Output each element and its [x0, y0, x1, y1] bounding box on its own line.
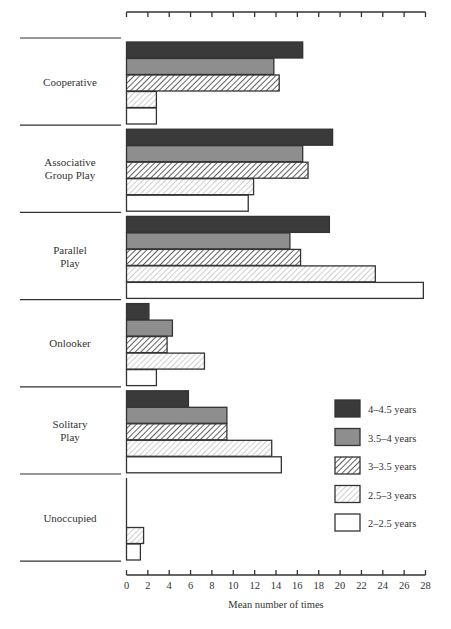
- x-tick-label: 18: [313, 580, 324, 591]
- bar: [127, 92, 157, 108]
- bar: [127, 179, 254, 195]
- x-tick-label: 14: [271, 580, 282, 591]
- bar: [127, 233, 290, 249]
- bar: [127, 75, 280, 91]
- bar: [127, 457, 282, 473]
- category-label: Play: [60, 431, 80, 443]
- bar: [127, 353, 205, 369]
- bar: [127, 407, 227, 423]
- bar: [127, 370, 157, 386]
- x-tick-label: 0: [124, 580, 129, 591]
- category-label: Play: [60, 257, 80, 269]
- x-tick-label: 6: [188, 580, 193, 591]
- legend-swatch: [335, 400, 360, 417]
- x-tick-label: 28: [420, 580, 431, 591]
- category-label: Parallel: [53, 244, 87, 256]
- bar: [127, 249, 301, 265]
- category-label: Group Play: [45, 169, 96, 181]
- bar: [127, 162, 309, 178]
- bar: [127, 42, 303, 58]
- play-behavior-chart: CooperativeAssociativeGroup PlayParallel…: [0, 0, 451, 629]
- legend-swatch: [335, 514, 360, 531]
- x-tick-label: 24: [378, 580, 389, 591]
- legend-swatch: [335, 429, 360, 446]
- category-label: Solitary: [53, 418, 88, 430]
- x-tick-label: 12: [249, 580, 260, 591]
- bar: [127, 146, 303, 162]
- bar: [127, 282, 424, 298]
- legend-label: 2–2.5 years: [368, 518, 416, 529]
- category-separators: [20, 38, 121, 561]
- bar: [127, 108, 157, 124]
- legend-label: 4–4.5 years: [368, 404, 416, 415]
- x-tick-label: 4: [167, 580, 173, 591]
- x-tick-label: 10: [228, 580, 239, 591]
- category-label: Unoccupied: [43, 512, 97, 524]
- x-axis-label: Mean number of times: [228, 599, 323, 610]
- x-tick-label: 2: [145, 580, 150, 591]
- bottom-axis: 0246810121416182022242628: [124, 570, 431, 591]
- category-label: Associative: [44, 156, 95, 168]
- x-tick-label: 22: [356, 580, 367, 591]
- legend-swatch: [335, 457, 360, 474]
- legend-label: 3.5–4 years: [368, 433, 416, 444]
- bar: [127, 129, 333, 145]
- bar: [127, 216, 330, 232]
- x-tick-label: 8: [209, 580, 214, 591]
- category-label: Cooperative: [43, 76, 97, 88]
- x-tick-label: 26: [399, 580, 410, 591]
- legend: 4–4.5 years3.5–4 years3–3.5 years2.5–3 y…: [335, 400, 416, 531]
- bar: [127, 304, 149, 320]
- category-label: Onlooker: [49, 337, 91, 349]
- top-axis: [127, 12, 426, 17]
- x-tick-label: 20: [335, 580, 346, 591]
- bar: [127, 195, 249, 211]
- bar: [127, 440, 272, 456]
- bar: [127, 391, 189, 407]
- bar: [127, 266, 376, 282]
- bars: [127, 42, 424, 560]
- bar: [127, 544, 141, 560]
- bar: [127, 320, 173, 336]
- bar: [127, 59, 274, 75]
- legend-swatch: [335, 486, 360, 503]
- x-tick-label: 16: [292, 580, 303, 591]
- legend-label: 3–3.5 years: [368, 461, 416, 472]
- bar: [127, 337, 168, 353]
- legend-label: 2.5–3 years: [368, 490, 416, 501]
- bar: [127, 424, 227, 440]
- bar: [127, 528, 144, 544]
